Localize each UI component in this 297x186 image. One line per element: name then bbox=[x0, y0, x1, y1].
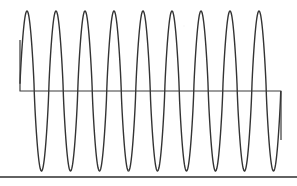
waveform-figure: Oscilloscope-style sinusoidal waveform t… bbox=[0, 0, 297, 186]
waveform-plot bbox=[0, 0, 297, 186]
